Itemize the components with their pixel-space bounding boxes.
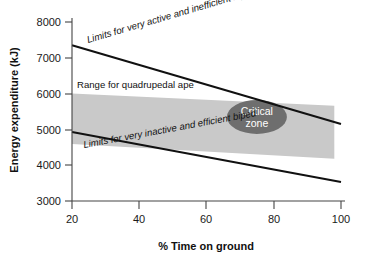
x-axis-title: % Time on ground [158, 240, 254, 252]
energy-expenditure-chart: Critical zone Limits for very active and… [0, 0, 366, 263]
y-axis-title: Energy expenditure (kJ) [8, 47, 20, 173]
y-tick-label-5000: 5000 [37, 124, 61, 136]
y-tick-label-8000: 8000 [37, 16, 61, 28]
y-tick-label-6000: 6000 [37, 88, 61, 100]
x-tick-label-60: 60 [200, 213, 212, 225]
chart-container: Critical zone Limits for very active and… [0, 0, 366, 263]
y-tick-label-7000: 7000 [37, 52, 61, 64]
y-tick-label-4000: 4000 [37, 159, 61, 171]
band-annotation: Range for quadrupedal ape [77, 79, 194, 90]
x-tick-label-100: 100 [332, 213, 350, 225]
x-tick-label-20: 20 [66, 213, 78, 225]
x-tick-label-40: 40 [133, 213, 145, 225]
y-tick-label-3000: 3000 [37, 195, 61, 207]
x-tick-label-80: 80 [268, 213, 280, 225]
